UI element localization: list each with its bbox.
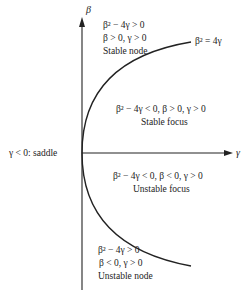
parabola-curve bbox=[82, 42, 191, 266]
beta-axis-label: β bbox=[86, 4, 91, 15]
saddle-label: γ < 0: saddle bbox=[9, 148, 57, 159]
stable-node-condition-2: β > 0, γ > 0 bbox=[103, 33, 147, 44]
gamma-axis-arrow-icon bbox=[224, 150, 233, 156]
gamma-axis-label: γ bbox=[236, 147, 240, 158]
unstable-focus-condition: β² − 4γ < 0, β < 0, γ > 0 bbox=[113, 171, 203, 182]
stable-node-label: Stable node bbox=[103, 46, 148, 57]
stable-focus-label: Stable focus bbox=[141, 117, 188, 128]
beta-axis-arrow-icon bbox=[79, 17, 85, 27]
stable-node-condition-1: β² − 4γ > 0 bbox=[103, 20, 145, 31]
stable-focus-condition: β² − 4γ < 0, β > 0, γ > 0 bbox=[116, 104, 206, 115]
unstable-focus-label: Unstable focus bbox=[133, 184, 190, 195]
unstable-node-label: Unstable node bbox=[98, 271, 153, 282]
unstable-node-condition-1: β² − 4γ > 0 bbox=[98, 245, 140, 256]
unstable-node-condition-2: β < 0, γ > 0 bbox=[99, 258, 143, 269]
parabola-label: β² = 4γ bbox=[195, 36, 222, 47]
